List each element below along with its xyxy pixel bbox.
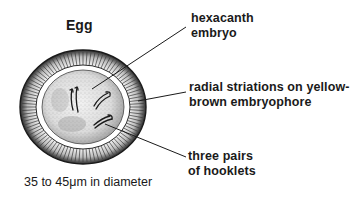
- diagram-title: Egg: [66, 17, 92, 33]
- hexacanth-embryo: [42, 70, 124, 144]
- egg-diagram: Egg hexacanth embryo radial striations o…: [0, 0, 363, 198]
- label-line: hexacanth: [191, 11, 254, 26]
- label-hexacanth-embryo: hexacanth embryo: [191, 11, 254, 41]
- label-line: of hooklets: [188, 164, 256, 179]
- size-caption: 35 to 45μm in diameter: [24, 175, 152, 189]
- label-line: brown embryophore: [189, 95, 349, 110]
- label-line: three pairs: [188, 149, 256, 164]
- label-line: radial striations on yellow-: [189, 80, 349, 95]
- label-line: embryo: [191, 26, 254, 41]
- label-radial-striations: radial striations on yellow- brown embry…: [189, 80, 349, 110]
- label-hooklets: three pairs of hooklets: [188, 149, 256, 179]
